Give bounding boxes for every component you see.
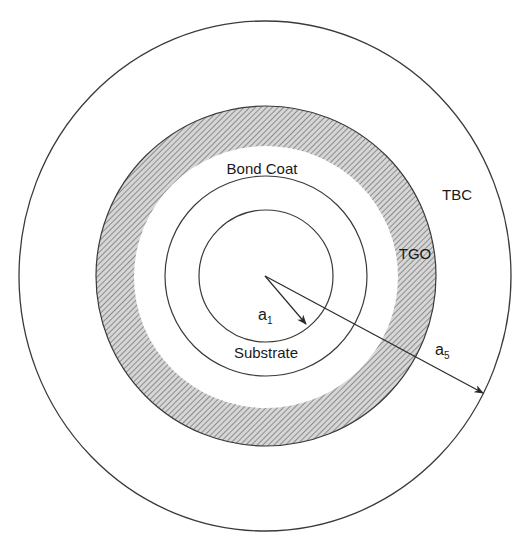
label-radius-a5-sub: 5 (444, 350, 450, 361)
label-tgo: TGO (399, 245, 432, 262)
label-substrate: Substrate (234, 344, 298, 361)
tgo-hatched-ring (0, 0, 519, 541)
label-tbc: TBC (442, 186, 472, 203)
tbc-cross-section-diagram: Bond Coat TBC TGO Substrate a1 a5 (0, 0, 519, 541)
label-bond-coat: Bond Coat (227, 160, 299, 177)
label-radius-a1-sub: 1 (267, 315, 273, 326)
label-radius-a5-base: a (435, 341, 444, 358)
label-radius-a1-base: a (258, 306, 267, 323)
